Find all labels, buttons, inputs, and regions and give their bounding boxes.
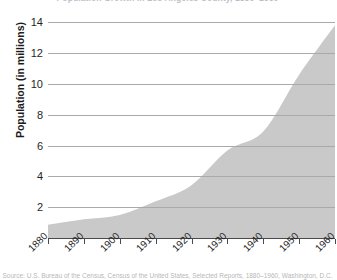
plot-area bbox=[48, 13, 335, 238]
y-tick-label-2: 2 bbox=[19, 202, 43, 213]
x-tick-1950 bbox=[299, 239, 300, 244]
y-tick-label-12: 12 bbox=[19, 48, 43, 59]
gridline-over-8 bbox=[48, 115, 335, 116]
chart-title: Population Growth in Los Angeles County,… bbox=[0, 0, 335, 5]
x-tick-1900 bbox=[120, 239, 121, 244]
x-tick-1890 bbox=[84, 239, 85, 244]
gridline-over-2 bbox=[48, 207, 335, 208]
x-tick-label-1880: 1880 bbox=[26, 230, 50, 254]
x-tick-1880 bbox=[48, 239, 49, 244]
y-tick-label-6: 6 bbox=[19, 141, 43, 152]
gridline-over-4 bbox=[48, 176, 335, 177]
y-tick-label-4: 4 bbox=[19, 171, 43, 182]
gridline-over-14 bbox=[48, 22, 335, 23]
x-tick-1940 bbox=[263, 239, 264, 244]
population-area-path bbox=[48, 25, 335, 238]
y-tick-label-10: 10 bbox=[19, 79, 43, 90]
gridline-over-6 bbox=[48, 146, 335, 147]
y-tick-label-14: 14 bbox=[19, 17, 43, 28]
source-caption: Source: U.S. Bureau of the Census, Censu… bbox=[0, 272, 335, 280]
x-tick-1960 bbox=[335, 239, 336, 244]
gridline-over-12 bbox=[48, 53, 335, 54]
x-tick-1930 bbox=[227, 239, 228, 244]
gridline-over-10 bbox=[48, 84, 335, 85]
y-tick-label-8: 8 bbox=[19, 110, 43, 121]
area-series-population bbox=[48, 13, 335, 238]
